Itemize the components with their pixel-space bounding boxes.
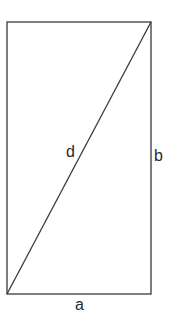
diagonal-label: d: [66, 143, 75, 160]
height-label: b: [154, 147, 163, 164]
width-label: a: [75, 296, 84, 313]
diagonal-line: [7, 22, 151, 294]
rectangle-diagonal-diagram: d b a: [0, 0, 175, 313]
